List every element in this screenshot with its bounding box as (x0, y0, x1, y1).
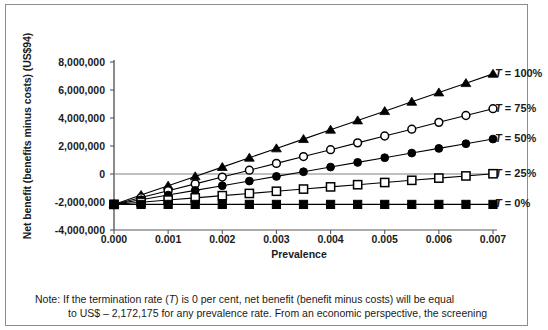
marker-filled-circle (462, 140, 470, 148)
marker-filled-square (191, 200, 199, 208)
marker-filled-triangle (488, 69, 498, 77)
marker-open-circle (245, 166, 253, 174)
marker-open-circle (435, 118, 443, 126)
marker-filled-square (218, 200, 226, 208)
marker-open-circle (408, 125, 416, 133)
note-line1-suffix: ) is 0 per cent, net benefit (benefit mi… (175, 293, 454, 305)
marker-open-square (408, 176, 416, 184)
marker-open-circle (327, 146, 335, 154)
marker-filled-square (164, 200, 172, 208)
marker-open-circle (381, 132, 389, 140)
marker-filled-circle (381, 154, 389, 162)
marker-open-square (326, 183, 334, 191)
marker-filled-circle (408, 149, 416, 157)
marker-filled-square (299, 200, 307, 208)
marker-open-circle (354, 139, 362, 147)
note-line2: to US$ – 2,172,175 for any prevalence ra… (35, 306, 515, 320)
marker-filled-triangle (299, 135, 309, 143)
marker-open-circle (462, 112, 470, 120)
marker-filled-square (381, 200, 389, 208)
marker-filled-square (408, 200, 416, 208)
marker-filled-square (354, 200, 362, 208)
marker-open-square (381, 178, 389, 186)
marker-filled-square (272, 200, 280, 208)
marker-filled-circle (273, 172, 281, 180)
marker-open-square (489, 170, 497, 178)
marker-filled-triangle (380, 107, 390, 115)
marker-filled-triangle (353, 116, 363, 124)
marker-open-square (272, 187, 280, 195)
marker-open-square (354, 181, 362, 189)
marker-filled-circle (245, 177, 253, 185)
marker-filled-triangle (434, 88, 444, 96)
marker-open-square (299, 185, 307, 193)
marker-filled-square (245, 200, 253, 208)
marker-filled-square (489, 200, 497, 208)
chart-plot-region: Net benefit (benefits minus costs) (US$9… (6, 5, 529, 273)
marker-filled-circle (327, 163, 335, 171)
marker-open-square (218, 192, 226, 200)
marker-open-circle (218, 173, 226, 181)
marker-open-square (435, 174, 443, 182)
note-line1-prefix: Note: If the termination rate ( (35, 293, 169, 305)
marker-open-circle (273, 159, 281, 167)
marker-filled-circle (354, 158, 362, 166)
chart-svg (6, 5, 529, 273)
marker-filled-circle (300, 168, 308, 176)
marker-filled-circle (435, 144, 443, 152)
marker-open-circle (300, 153, 308, 161)
marker-filled-square (326, 200, 334, 208)
marker-filled-square (435, 200, 443, 208)
marker-filled-square (462, 200, 470, 208)
marker-open-square (462, 172, 470, 180)
marker-filled-triangle (217, 163, 227, 171)
marker-open-square (245, 189, 253, 197)
marker-filled-square (137, 200, 145, 208)
figure-note: Note: If the termination rate (T) is 0 p… (35, 292, 515, 320)
marker-filled-circle (218, 182, 226, 190)
marker-filled-circle (489, 135, 497, 143)
series-4 (110, 200, 497, 208)
marker-filled-square (110, 200, 118, 208)
marker-open-circle (489, 105, 497, 113)
note-line1: Note: If the termination rate (T) is 0 p… (35, 293, 454, 305)
figure-panel: Net benefit (benefits minus costs) (US$9… (5, 4, 528, 326)
